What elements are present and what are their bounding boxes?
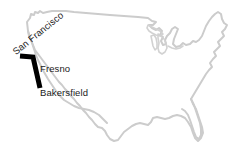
lake-michigan-path xyxy=(151,35,157,50)
us-map-figure: San Francisco Fresno Bakersfield xyxy=(0,0,248,161)
us-map-svg xyxy=(0,0,248,161)
route-polyline xyxy=(20,56,40,88)
us-outline-path xyxy=(27,11,227,141)
city-label-fresno: Fresno xyxy=(40,64,70,74)
city-label-bakersfield: Bakersfield xyxy=(40,88,88,98)
